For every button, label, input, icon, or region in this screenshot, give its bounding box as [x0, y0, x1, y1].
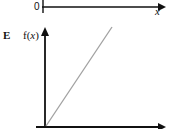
origin-label: 0 [34, 2, 40, 12]
top-x-axis [42, 0, 166, 13]
function-line [46, 27, 112, 126]
diagram-canvas [0, 0, 177, 129]
x-axis-label: x [155, 6, 160, 17]
y-label-suffix: ) [35, 29, 39, 41]
graph-e-axes [36, 27, 166, 129]
y-axis-label: f(x) [23, 30, 39, 41]
option-label-e: E [3, 30, 10, 41]
